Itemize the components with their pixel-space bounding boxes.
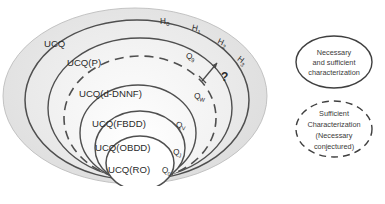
legend-solid-line-2: and sufficient	[313, 58, 356, 67]
legend-dashed-line-2: Characterization	[307, 120, 360, 129]
point-label-h0-base: H	[160, 17, 166, 26]
legend-item-solid: Necessary and sufficient characterizatio…	[296, 36, 372, 88]
legend-dashed-line-1: Sufficient	[319, 109, 349, 118]
legend-item-dashed: Sufficient Characterization (Necessary c…	[296, 101, 372, 157]
diagram-canvas: UCQ UCQ(P) UCQ(d-DNNF) UCQ(FBDD) UCQ(OBD…	[0, 0, 385, 204]
set-label-ucq-fbdd: UCQ(FBDD)	[92, 118, 146, 129]
legend-solid-line-3: characterization	[308, 68, 360, 77]
set-label-ucq-d-dnnf: UCQ(d-DNNF)	[79, 88, 142, 99]
question-mark-label: ?	[221, 70, 228, 84]
set-label-ucq-p: UCQ(P)	[67, 57, 101, 68]
legend-solid-line-1: Necessary	[317, 48, 352, 57]
point-label-h0-sub: 0	[166, 21, 169, 27]
set-label-ucq: UCQ	[44, 38, 65, 49]
legend-dashed-line-3: (Necessary	[316, 131, 353, 140]
legend: Necessary and sufficient characterizatio…	[296, 36, 372, 157]
set-label-ucq-obdd: UCQ(OBDD)	[95, 142, 150, 153]
set-label-ucq-ro: UCQ(RO)	[108, 164, 150, 175]
legend-dashed-line-4: conjectured)	[314, 142, 354, 151]
